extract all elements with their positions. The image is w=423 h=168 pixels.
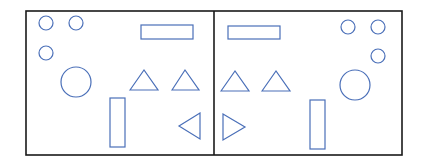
large-circle-shape — [340, 70, 370, 100]
triangle-up-shape — [130, 70, 158, 90]
small-circle-shape — [341, 20, 355, 34]
diagram-svg — [0, 0, 423, 168]
triangle-up-shape — [172, 70, 199, 90]
small-circle-shape — [69, 16, 83, 30]
large-circle-shape — [61, 67, 91, 97]
small-circle-shape — [371, 20, 385, 34]
triangle-right-shape — [223, 114, 245, 140]
small-circle-shape — [39, 16, 53, 30]
wide-rectangle-shape — [141, 25, 193, 39]
triangle-left-shape — [179, 113, 200, 139]
triangle-up-shape — [221, 71, 249, 91]
tall-rectangle-shape — [310, 100, 325, 149]
small-circle-shape — [371, 49, 385, 63]
right-panel — [221, 20, 385, 149]
left-panel — [39, 16, 200, 147]
small-circle-shape — [39, 46, 53, 60]
mirrored-shapes-diagram — [0, 0, 423, 168]
tall-rectangle-shape — [110, 98, 125, 147]
wide-rectangle-shape — [228, 26, 280, 39]
triangle-up-shape — [262, 71, 290, 91]
